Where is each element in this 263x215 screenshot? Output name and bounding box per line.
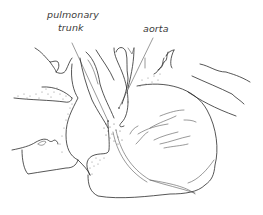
left-tissue-loop — [38, 141, 46, 145]
right-auricle-lobe — [87, 121, 109, 175]
surface-stroke-5 — [160, 136, 190, 144]
surface-stroke-4 — [138, 124, 178, 140]
lower-edge-curve — [188, 160, 214, 183]
surface-stroke-7 — [130, 126, 138, 134]
pulmonary-trunk-right-wall — [86, 52, 114, 118]
right-strand-1 — [200, 64, 250, 82]
surface-stroke-8 — [164, 144, 188, 148]
stipple-fat-lower — [90, 158, 105, 175]
surface-stroke-1 — [160, 110, 184, 116]
svc-loop — [50, 62, 56, 72]
aorta-small-v — [128, 48, 134, 54]
right-strand-squiggle — [154, 52, 168, 74]
left-tissue-lower-box — [12, 139, 78, 174]
surface-stroke-3 — [150, 116, 176, 128]
right-strand-curl — [166, 50, 174, 68]
pulmonary-trunk-left-wall — [80, 58, 108, 128]
heart-diagram: pulmonary trunk aorta — [0, 0, 263, 215]
aorta-arch-loop — [116, 48, 128, 105]
aorta-base — [120, 102, 128, 127]
surface-stroke-2 — [184, 120, 196, 122]
stipple-fat-atrium — [60, 104, 73, 153]
heart-drawing — [0, 0, 263, 215]
right-atrium-outline — [66, 64, 90, 175]
aorta-right-wall — [128, 48, 134, 88]
leader-line-pulmonary-trunk — [72, 43, 108, 121]
leader-dot-aorta — [118, 107, 120, 109]
left-tissue-lower — [42, 87, 72, 98]
stipple-fat-center — [103, 123, 122, 144]
svc-outline — [35, 48, 72, 73]
right-strand-3 — [188, 92, 236, 116]
vessel-branch-1 — [96, 50, 114, 80]
